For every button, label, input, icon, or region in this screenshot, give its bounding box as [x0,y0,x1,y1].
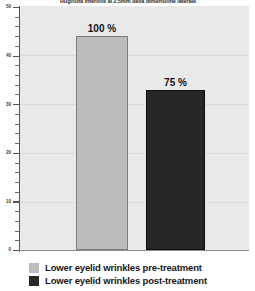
y-tick-50 [13,7,19,8]
y-tick-label-30: 30 [0,102,11,107]
y-axis-line [19,6,20,252]
y-tick-minor [15,65,19,66]
y-tick-label-40: 40 [0,53,11,58]
y-tick-minor [15,75,19,76]
y-tick-label-50: 50 [0,4,11,9]
y-tick-label-10: 10 [0,199,11,204]
legend-swatch-icon [29,263,39,273]
y-tick-minor [15,163,19,164]
legend-item-pre-treatment: Lower eyelid wrinkles pre-treatment [0,261,255,274]
bar-post-treatment [146,90,205,250]
y-tick-0 [13,250,19,251]
y-tick-20 [13,153,19,154]
chart-legend: Lower eyelid wrinkles pre-treatment Lowe… [0,261,255,287]
bar-label-pre-treatment: 100 % [76,23,128,35]
y-tick-minor [15,26,19,27]
plot-area [20,6,249,251]
y-tick-minor [15,143,19,144]
y-tick-minor [15,124,19,125]
legend-label-post-treatment: Lower eyelid wrinkles post-treatment [45,275,207,286]
bar-label-post-treatment: 75 % [146,77,205,89]
y-tick-minor [15,211,19,212]
y-tick-minor [15,114,19,115]
y-tick-minor [15,17,19,18]
y-tick-minor [15,85,19,86]
legend-label-pre-treatment: Lower eyelid wrinkles pre-treatment [45,262,202,273]
legend-swatch-icon [29,276,39,286]
chart-title: Rugosità inferiore ai 2,5mm della dimens… [22,0,234,5]
y-tick-minor [15,46,19,47]
y-tick-minor [15,240,19,241]
y-tick-label-0: 0 [0,247,11,252]
bar-chart: Rugosità inferiore ai 2,5mm della dimens… [0,0,255,291]
y-tick-minor [15,94,19,95]
y-tick-minor [15,36,19,37]
legend-item-post-treatment: Lower eyelid wrinkles post-treatment [0,274,255,287]
y-tick-10 [13,201,19,202]
gridline [20,153,249,154]
gridline [20,55,249,56]
gridline [20,104,249,105]
bar-pre-treatment [76,36,128,250]
y-tick-label-20: 20 [0,150,11,155]
y-tick-minor [15,182,19,183]
y-tick-30 [13,104,19,105]
y-tick-minor [15,231,19,232]
x-axis-line [19,250,249,251]
y-tick-40 [13,56,19,57]
y-tick-minor [15,221,19,222]
y-tick-minor [15,192,19,193]
y-tick-minor [15,172,19,173]
gridline [20,202,249,203]
y-tick-minor [15,133,19,134]
